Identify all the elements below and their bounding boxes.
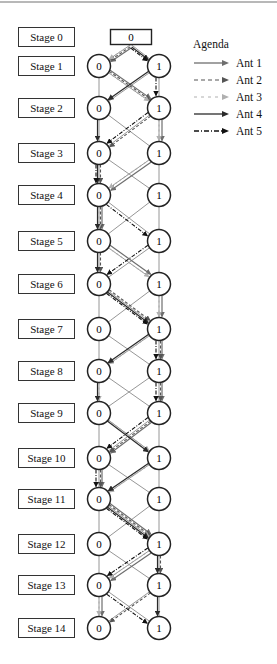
state-node-10-0: 0 xyxy=(88,447,111,470)
svg-text:0: 0 xyxy=(96,323,102,335)
svg-text:1: 1 xyxy=(156,579,162,591)
state-node-5-0: 0 xyxy=(88,230,111,253)
ant-2-arrow xyxy=(110,47,130,60)
state-node-11-0: 0 xyxy=(88,488,111,511)
svg-text:0: 0 xyxy=(96,493,102,505)
state-node-1-1: 1 xyxy=(148,55,171,78)
ant-5-arrow xyxy=(107,245,147,274)
svg-text:0: 0 xyxy=(96,147,102,159)
svg-text:0: 0 xyxy=(96,538,102,550)
svg-text:0: 0 xyxy=(96,278,102,290)
legend-label: Ant 4 xyxy=(236,108,262,120)
ant-5-arrow xyxy=(108,548,148,575)
state-node-2-0: 0 xyxy=(88,97,111,120)
state-node-5-1: 1 xyxy=(148,230,171,253)
ant-4-arrow xyxy=(108,334,148,362)
svg-text:1: 1 xyxy=(156,147,162,159)
start-node: 0 xyxy=(111,30,152,45)
ant-4-arrow xyxy=(132,47,148,60)
svg-text:0: 0 xyxy=(96,579,102,591)
state-node-4-1: 1 xyxy=(148,184,171,207)
svg-text:0: 0 xyxy=(96,189,102,201)
state-node-7-0: 0 xyxy=(88,318,111,341)
legend-label: Ant 3 xyxy=(236,91,262,103)
svg-text:0: 0 xyxy=(96,407,102,419)
legend-title: Agenda xyxy=(193,38,277,50)
legend-item-ant-1: Ant 1 xyxy=(193,54,277,71)
svg-text:1: 1 xyxy=(156,538,162,550)
svg-text:1: 1 xyxy=(156,452,162,464)
legend-label: Ant 2 xyxy=(236,74,262,86)
svg-text:1: 1 xyxy=(156,493,162,505)
ant-1-arrow xyxy=(111,48,131,61)
svg-text:1: 1 xyxy=(156,278,162,290)
svg-text:0: 0 xyxy=(96,235,102,247)
svg-text:0: 0 xyxy=(128,31,134,43)
solid-arrow-icon xyxy=(193,59,231,67)
state-node-3-0: 0 xyxy=(88,142,111,165)
state-node-7-1: 1 xyxy=(148,318,171,341)
svg-text:1: 1 xyxy=(156,60,162,72)
state-node-13-1: 1 xyxy=(148,574,171,597)
ant-5-arrow xyxy=(107,113,148,144)
ant-5-arrow xyxy=(107,418,148,449)
svg-text:1: 1 xyxy=(156,189,162,201)
ant-1-arrow xyxy=(110,245,150,274)
state-node-11-1: 1 xyxy=(148,488,171,511)
state-node-14-0: 0 xyxy=(88,617,111,640)
legend: Agenda Ant 1 Ant 2 Ant 3 Ant 4 Ant 5 xyxy=(193,38,277,139)
state-node-3-1: 1 xyxy=(148,142,171,165)
svg-text:1: 1 xyxy=(156,365,162,377)
dash-dot-arrow-icon xyxy=(193,127,231,135)
ant-5-arrow xyxy=(131,48,147,61)
state-nodes: 00101010101010101010101010101 xyxy=(88,30,171,640)
state-node-13-0: 0 xyxy=(88,574,111,597)
dashed-arrow-icon xyxy=(193,76,231,84)
state-node-8-1: 1 xyxy=(148,360,171,383)
state-node-10-1: 1 xyxy=(148,447,171,470)
ant-1-arrow xyxy=(111,553,151,580)
svg-text:0: 0 xyxy=(96,622,102,634)
svg-text:0: 0 xyxy=(96,452,102,464)
svg-text:0: 0 xyxy=(96,60,102,72)
svg-text:1: 1 xyxy=(156,235,162,247)
ant-2-arrow xyxy=(109,505,150,536)
state-node-9-0: 0 xyxy=(88,402,111,425)
figure-caption xyxy=(0,654,277,664)
legend-item-ant-3: Ant 3 xyxy=(193,88,277,105)
state-node-12-0: 0 xyxy=(88,533,111,556)
legend-label: Ant 1 xyxy=(236,57,262,69)
dark-solid-arrow-icon xyxy=(193,110,231,118)
ant-1-arrow xyxy=(110,504,151,535)
ant-2-arrow xyxy=(109,290,150,321)
state-node-14-1: 1 xyxy=(148,617,171,640)
state-node-6-1: 1 xyxy=(148,273,171,296)
ant-4-arrow xyxy=(108,463,148,490)
state-node-6-0: 0 xyxy=(88,273,111,296)
legend-item-ant-4: Ant 4 xyxy=(193,105,277,122)
legend-item-ant-2: Ant 2 xyxy=(193,71,277,88)
svg-text:0: 0 xyxy=(96,102,102,114)
state-node-1-0: 0 xyxy=(88,55,111,78)
svg-text:0: 0 xyxy=(96,365,102,377)
state-node-4-0: 0 xyxy=(88,184,111,207)
state-node-12-1: 1 xyxy=(148,533,171,556)
state-node-2-1: 1 xyxy=(148,97,171,120)
legend-label: Ant 5 xyxy=(236,125,262,137)
svg-text:1: 1 xyxy=(156,622,162,634)
ant-1-arrow xyxy=(111,162,151,190)
svg-text:1: 1 xyxy=(156,323,162,335)
svg-text:1: 1 xyxy=(156,102,162,114)
light-dashed-arrow-icon xyxy=(193,93,231,101)
ant-5-arrow xyxy=(107,594,147,623)
svg-text:1: 1 xyxy=(156,407,162,419)
legend-item-ant-5: Ant 5 xyxy=(193,122,277,139)
state-node-8-0: 0 xyxy=(88,360,111,383)
state-node-9-1: 1 xyxy=(148,402,171,425)
